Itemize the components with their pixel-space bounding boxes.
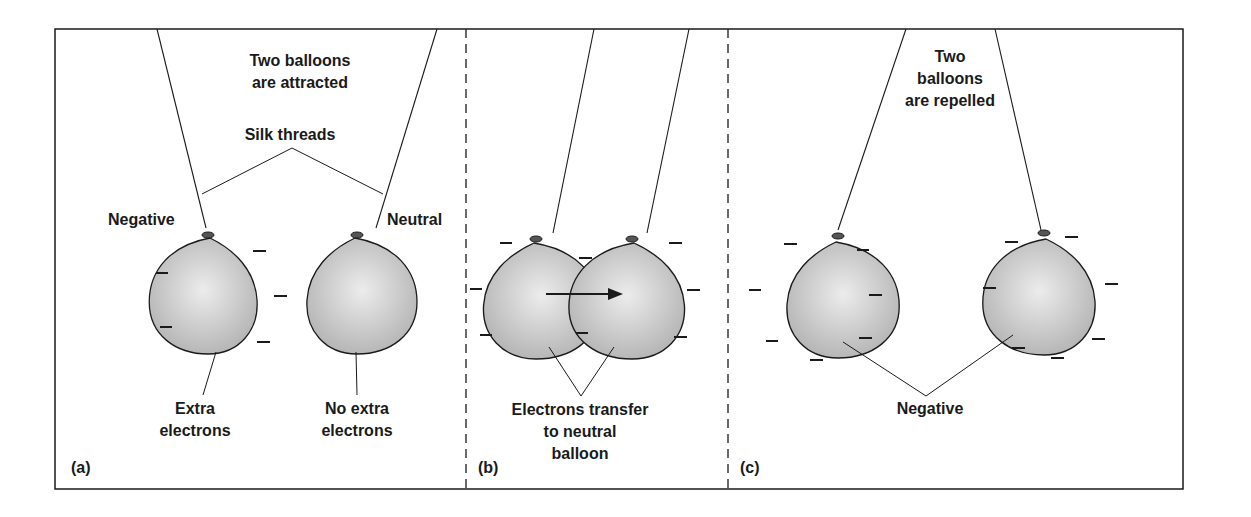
panel-c-label: (c) bbox=[740, 459, 760, 477]
panel-c-title: Two balloons are repelled bbox=[890, 46, 1010, 112]
panel-b-graphics bbox=[470, 29, 700, 396]
silk-threads-label: Silk threads bbox=[225, 124, 355, 146]
electron-transfer-caption: Electrons transfer to neutral balloon bbox=[490, 399, 670, 465]
panel-a-label: (a) bbox=[71, 459, 91, 477]
negative-caption: Negative bbox=[880, 398, 980, 420]
neutral-label: Neutral bbox=[387, 209, 442, 231]
negative-label: Negative bbox=[108, 209, 175, 231]
panel-b-label: (b) bbox=[478, 459, 498, 477]
no-extra-electrons-caption: No extra electrons bbox=[307, 398, 407, 442]
extra-electrons-caption: Extra electrons bbox=[145, 398, 245, 442]
panel-a-title: Two balloons are attracted bbox=[225, 50, 375, 94]
